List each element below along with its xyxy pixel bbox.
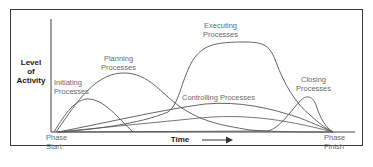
figure-caption xyxy=(18,153,358,163)
initiating-curve xyxy=(54,99,133,132)
controlling-label: Controlling Processes xyxy=(182,94,255,103)
time-arrow-head-icon xyxy=(226,137,233,144)
closing-lead-line xyxy=(58,118,200,132)
phase-finish-label: Phase Finish xyxy=(324,134,345,151)
executing-label: Executing Processes xyxy=(203,22,238,39)
planning-label: Planning Processes xyxy=(101,55,136,72)
x-axis-label: Time xyxy=(168,135,192,144)
initiating-label: Initiating Processes xyxy=(54,79,89,96)
phase-start-label: Phase Start xyxy=(46,134,67,151)
closing-label: Closing Processes xyxy=(296,76,331,93)
y-axis-label: Level of Activity xyxy=(14,58,48,85)
